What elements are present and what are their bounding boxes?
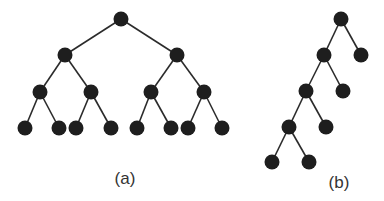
tree-b-label: (b): [329, 173, 350, 192]
tree-node: [317, 48, 332, 63]
tree-node: [114, 12, 129, 27]
tree-node: [319, 120, 334, 135]
tree-diagram: (a) (b): [0, 0, 384, 201]
tree-edge: [65, 19, 121, 55]
tree-node: [302, 155, 317, 170]
tree-node: [215, 121, 230, 136]
tree-node: [181, 121, 196, 136]
tree-node: [52, 121, 67, 136]
tree-a-edges: [25, 19, 222, 128]
degenerate-tree-b: (b): [265, 12, 369, 193]
tree-a-nodes: [18, 12, 230, 136]
tree-node: [265, 155, 280, 170]
tree-node: [299, 84, 314, 99]
tree-node: [144, 85, 159, 100]
tree-a-label: (a): [115, 169, 136, 188]
tree-node: [282, 120, 297, 135]
tree-node: [130, 121, 145, 136]
tree-node: [18, 121, 33, 136]
tree-node: [69, 121, 84, 136]
tree-node: [104, 121, 119, 136]
tree-node: [84, 85, 99, 100]
tree-edge: [121, 19, 177, 55]
tree-node: [164, 121, 179, 136]
tree-node: [197, 85, 212, 100]
tree-node: [334, 12, 349, 27]
tree-node: [58, 48, 73, 63]
tree-node: [354, 48, 369, 63]
tree-node: [170, 48, 185, 63]
balanced-tree-a: (a): [18, 12, 230, 189]
tree-node: [33, 85, 48, 100]
tree-node: [336, 84, 351, 99]
